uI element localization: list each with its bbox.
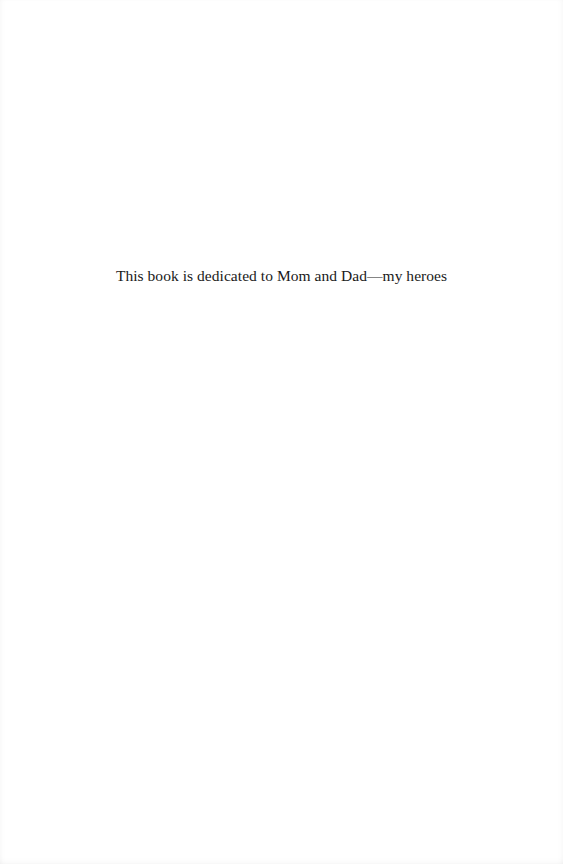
book-page: This book is dedicated to Mom and Dad—my… xyxy=(0,0,563,864)
dedication-text: This book is dedicated to Mom and Dad—my… xyxy=(0,266,563,286)
